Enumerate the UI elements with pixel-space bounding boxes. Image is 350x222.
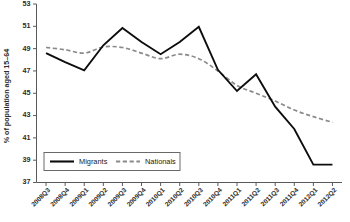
x-axis-tick-label: 2008Q3	[30, 186, 52, 208]
x-axis-tick-label: 2011Q1	[221, 186, 243, 208]
x-axis-tick-label: 2012Q1	[297, 186, 319, 208]
y-axis-tick-label: 39	[23, 155, 31, 164]
y-axis-tick-label: 37	[23, 177, 31, 186]
x-axis-tick-label: 2011Q2	[240, 186, 262, 208]
x-axis-tick-marks	[46, 183, 332, 187]
x-axis-tick-label: 2012Q2	[316, 186, 338, 208]
chart-legend: Migrants Nationals	[44, 153, 180, 171]
line-chart-container: 373941434547495153 2008Q32008Q42009Q1200…	[0, 0, 350, 222]
x-axis-tick-label: 2008Q4	[49, 186, 71, 208]
x-axis-tick-label: 2010Q2	[163, 186, 185, 208]
chart-canvas: 373941434547495153 2008Q32008Q42009Q1200…	[0, 0, 350, 222]
x-axis-tick-label: 2010Q1	[144, 186, 166, 208]
x-axis-tick-label: 2009Q2	[87, 186, 109, 208]
x-axis-tick-label: 2010Q4	[202, 186, 224, 208]
y-axis-tick-label: 49	[23, 44, 31, 53]
x-axis-tick-label: 2009Q4	[125, 186, 147, 208]
y-axis-tick-labels: 373941434547495153	[23, 0, 31, 186]
x-axis-tick-label: 2011Q3	[259, 186, 281, 208]
y-axis-tick-label: 47	[23, 66, 31, 75]
series-line-migrants	[46, 27, 332, 165]
series-line-nationals	[46, 46, 332, 122]
x-axis-tick-labels: 2008Q32008Q42009Q12009Q22009Q32009Q42010…	[30, 186, 339, 208]
y-axis-tick-marks	[33, 4, 37, 183]
y-axis-tick-label: 41	[23, 133, 31, 142]
legend-label-nationals: Nationals	[145, 157, 176, 166]
x-axis-tick-label: 2009Q3	[106, 186, 128, 208]
x-axis-tick-label: 2010Q3	[182, 186, 204, 208]
y-axis-tick-label: 53	[23, 0, 31, 8]
y-axis-title: % of population aged 15–64	[2, 49, 11, 144]
y-axis-tick-label: 51	[23, 21, 31, 30]
legend-label-migrants: Migrants	[79, 157, 108, 166]
y-axis-tick-label: 45	[23, 88, 31, 97]
x-axis-tick-label: 2009Q1	[68, 186, 90, 208]
x-axis-tick-label: 2011Q4	[278, 186, 300, 208]
y-axis-tick-label: 43	[23, 110, 31, 119]
